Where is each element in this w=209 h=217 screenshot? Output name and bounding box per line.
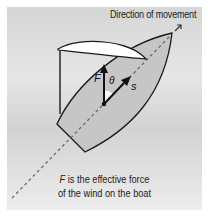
sail — [58, 41, 146, 59]
direction-of-movement-label: Direction of movement — [110, 9, 196, 20]
caption-line-1-text: is the effective force — [65, 174, 149, 185]
angle-label: θ — [109, 75, 114, 86]
force-label: F — [94, 72, 101, 84]
displacement-label: s — [131, 80, 137, 92]
caption-line-2: of the wind on the boat — [15, 187, 194, 201]
caption-line-1: F is the effective force — [15, 173, 194, 187]
origin-point — [102, 102, 106, 106]
direction-arrow-icon — [175, 25, 181, 31]
